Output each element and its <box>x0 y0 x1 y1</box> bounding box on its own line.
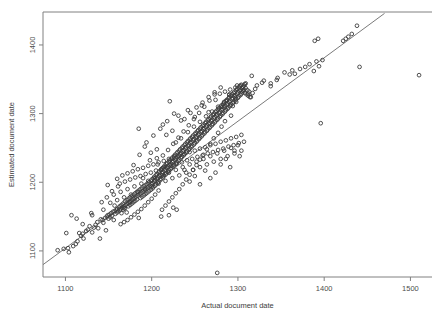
scatter-point <box>144 172 148 176</box>
scatter-point <box>146 200 150 204</box>
scatter-point <box>171 129 175 133</box>
scatter-point <box>174 168 178 172</box>
scatter-point <box>129 215 133 219</box>
scatter-point <box>171 176 175 180</box>
scatter-point <box>88 224 92 228</box>
scatter-point <box>164 133 168 137</box>
y-tick-label: 1400 <box>28 37 37 54</box>
scatter-point <box>234 135 238 139</box>
scatter-point <box>149 151 153 155</box>
scatter-point <box>70 213 74 217</box>
scatter-point <box>224 139 228 143</box>
scatter-point <box>316 37 320 41</box>
scatter-point <box>115 198 119 202</box>
scatter-point <box>123 180 127 184</box>
scatter-point <box>171 196 175 200</box>
scatter-point <box>208 154 212 158</box>
x-tick-label: 1200 <box>143 284 160 293</box>
scatter-point <box>143 145 147 149</box>
scatter-point <box>308 62 312 66</box>
scatter-point <box>126 187 130 191</box>
scatter-point <box>104 228 108 232</box>
scatter-point <box>283 71 287 75</box>
scatter-point <box>203 169 207 173</box>
scatter-point <box>177 187 181 191</box>
scatter-point <box>166 148 170 152</box>
scatter-point <box>102 208 106 212</box>
scatter-point <box>229 114 233 118</box>
scatter-point <box>223 90 227 94</box>
scatter-point <box>90 231 94 235</box>
scatter-point <box>240 149 244 153</box>
scatter-point <box>133 213 137 217</box>
scatter-point <box>240 133 244 137</box>
scatter-point <box>165 119 169 123</box>
scatter-point <box>139 207 143 211</box>
scatter-point <box>177 114 181 118</box>
scatter-point <box>160 208 164 212</box>
scatter-point <box>315 60 319 64</box>
scatter-point <box>251 91 255 95</box>
scatter-point <box>229 136 233 140</box>
scatter-point <box>290 69 294 73</box>
scatter-point <box>182 130 186 134</box>
scatter-point <box>145 141 149 145</box>
scatter-point <box>119 222 123 226</box>
scatter-point <box>162 159 166 163</box>
scatter-point <box>155 156 159 160</box>
scatter-point <box>193 174 197 178</box>
scatter-point <box>219 140 223 144</box>
scatter-point <box>139 182 143 186</box>
scatter-point <box>211 150 215 154</box>
scatter-point <box>143 204 147 208</box>
scatter-point <box>219 163 223 167</box>
scatter-point <box>157 189 161 193</box>
scatter-point <box>161 154 165 158</box>
scatter-point <box>355 24 359 28</box>
scatter-point <box>155 147 159 151</box>
scatter-point <box>197 111 201 115</box>
scatter-point <box>195 106 199 110</box>
scatter-point <box>186 130 190 134</box>
scatter-point <box>96 226 100 230</box>
scatter-point <box>358 65 362 69</box>
scatter-point <box>218 92 222 96</box>
scatter-point <box>293 72 297 76</box>
scatter-point <box>188 173 192 177</box>
scatter-point <box>198 120 202 124</box>
y-axis-title: Estimated document date <box>7 102 16 187</box>
scatter-point <box>214 98 218 102</box>
scatter-point <box>288 73 292 77</box>
x-axis-title: Actual document date <box>201 301 274 310</box>
scatter-point <box>112 218 116 222</box>
y-tick-label: 1200 <box>28 174 37 191</box>
scatter-point <box>205 163 209 167</box>
scatter-point <box>98 237 102 241</box>
scatter-point <box>100 200 104 204</box>
scatter-point <box>350 32 354 36</box>
scatter-point <box>298 67 302 71</box>
x-tick-label: 1100 <box>57 284 73 293</box>
scatter-plot-figure: 110012001300140015001100120013001400Actu… <box>0 0 444 322</box>
scatter-point <box>417 73 421 77</box>
scatter-point <box>187 123 191 127</box>
scatter-point <box>164 179 168 183</box>
scatter-point <box>119 190 123 194</box>
scatter-point <box>131 169 135 173</box>
scatter-point <box>208 99 212 103</box>
scatter-point <box>64 231 68 235</box>
scatter-point <box>212 160 216 164</box>
scatter-point <box>214 142 218 146</box>
scatter-point <box>167 200 171 204</box>
scatter-point <box>108 201 112 205</box>
scatter-point <box>219 86 223 90</box>
scatter-point <box>214 171 218 175</box>
plot-canvas: 110012001300140015001100120013001400Actu… <box>0 0 444 322</box>
scatter-point <box>159 215 163 219</box>
scatter-point <box>192 125 196 129</box>
scatter-point <box>136 210 140 214</box>
scatter-point <box>141 176 145 180</box>
y-tick-label: 1100 <box>28 243 37 259</box>
scatter-point <box>122 196 126 200</box>
scatter-point <box>171 206 175 210</box>
